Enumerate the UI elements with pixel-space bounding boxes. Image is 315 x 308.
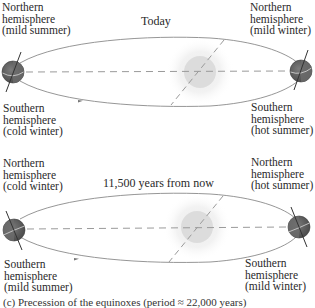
label-line: (mild summer) bbox=[2, 25, 71, 37]
label-top-right-south: Southern hemisphere (hot summer) bbox=[251, 102, 313, 137]
label-line: Southern bbox=[251, 102, 313, 114]
label-line: (mild summer) bbox=[4, 282, 73, 294]
apsis-line bbox=[26, 71, 290, 72]
label-line: (mild winter) bbox=[250, 25, 311, 37]
label-line: (mild winter) bbox=[245, 281, 306, 293]
orbit-arrow-icon bbox=[74, 258, 79, 260]
label-line: Northern bbox=[2, 2, 71, 14]
panel-title-future: 11,500 years from now bbox=[103, 176, 214, 191]
label-line: Northern bbox=[250, 2, 311, 14]
label-bottom-left-north: Northern hemisphere (cold winter) bbox=[3, 158, 63, 193]
figure-caption: (c) Precession of the equinoxes (period … bbox=[3, 296, 246, 308]
label-line: Southern bbox=[3, 103, 63, 115]
orbit-arrow-icon bbox=[78, 100, 83, 102]
label-line: (hot summer) bbox=[251, 180, 313, 192]
label-line: (cold winter) bbox=[3, 126, 63, 138]
label-top-right-north: Northern hemisphere (mild winter) bbox=[250, 2, 311, 37]
panel-today bbox=[2, 37, 312, 106]
apsis-line bbox=[27, 227, 288, 229]
orbit-path bbox=[20, 193, 296, 262]
label-bottom-left-south: Southern hemisphere (mild summer) bbox=[4, 259, 73, 294]
label-line: Northern bbox=[251, 157, 313, 169]
panel-title-today: Today bbox=[141, 14, 171, 29]
earth-icon bbox=[2, 52, 24, 92]
label-bottom-right-north: Northern hemisphere (hot summer) bbox=[251, 157, 313, 192]
label-line: (cold winter) bbox=[3, 181, 63, 193]
earth-icon bbox=[3, 211, 25, 250]
label-line: Southern bbox=[4, 259, 73, 271]
label-line: Northern bbox=[3, 158, 63, 170]
label-line: Southern bbox=[245, 258, 306, 270]
label-top-left-south: Southern hemisphere (cold winter) bbox=[3, 103, 63, 138]
label-top-left-north: Northern hemisphere (mild summer) bbox=[2, 2, 71, 37]
label-line: (hot summer) bbox=[251, 125, 313, 137]
label-bottom-right-south: Southern hemisphere (mild winter) bbox=[245, 258, 306, 293]
panel-future bbox=[3, 193, 310, 262]
